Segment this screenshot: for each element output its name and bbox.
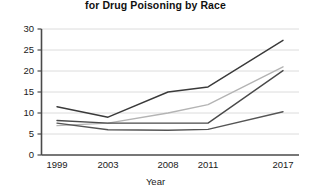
x-tick-label: 1999 (40, 159, 74, 170)
data-line-series-3 (57, 71, 283, 124)
y-tick-label: 5 (12, 128, 34, 139)
x-tick-label: 2003 (91, 159, 125, 170)
y-tick-label: 0 (12, 149, 34, 160)
data-series-layer (57, 40, 283, 130)
x-tick-label: 2011 (191, 159, 225, 170)
x-tick-label: 2008 (151, 159, 185, 170)
y-tick-label: 10 (12, 107, 34, 118)
x-tick-label: 2017 (266, 159, 300, 170)
line-chart: for Drug Poisoning by Race 051015202530 … (0, 0, 311, 195)
data-line-series-4 (57, 112, 283, 130)
y-tick-label: 25 (12, 44, 34, 55)
x-axis-title: Year (0, 176, 311, 187)
data-line-series-2 (57, 67, 283, 126)
y-tick-label: 15 (12, 86, 34, 97)
y-tick-label: 20 (12, 65, 34, 76)
y-tick-label: 30 (12, 23, 34, 34)
data-line-series-1 (57, 40, 283, 117)
